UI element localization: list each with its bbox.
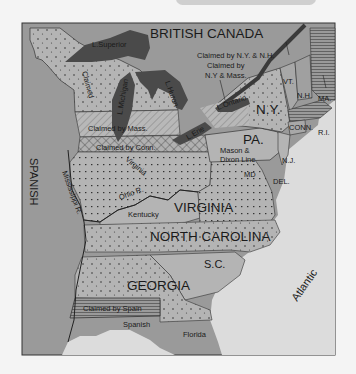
label-del: DEL.	[273, 177, 290, 186]
label-mason-dixon-2: Dixon Line	[220, 155, 255, 164]
label-georgia: GEORGIA	[127, 278, 190, 293]
region-maine-claimed	[310, 28, 335, 100]
label-mason-dixon-1: Mason &	[220, 146, 250, 155]
label-claimed-by-spain: Claimed by Spain	[83, 304, 142, 313]
label-ma: MA.	[318, 94, 331, 103]
label-vt: VT.	[283, 77, 294, 86]
label-spanish-west: SPANISH	[28, 158, 40, 206]
label-british-canada: BRITISH CANADA	[150, 26, 263, 41]
label-claimed-by-conn: Claimed by Conn.	[96, 143, 156, 152]
label-sc: S.C.	[204, 258, 225, 270]
label-pa: PA.	[243, 132, 264, 147]
label-florida: Florida	[183, 330, 207, 339]
label-conn: CONN.	[289, 123, 313, 132]
label-lake-superior: L.Superior	[92, 40, 127, 49]
label-claimed-ny-mass-1: Claimed by	[207, 61, 245, 70]
label-virginia: VIRGINIA	[174, 200, 233, 215]
label-spanish-south: Spanish	[123, 320, 150, 329]
label-nh: N.H.	[297, 91, 312, 100]
label-claimed-by-mass: Claimed by Mass.	[88, 124, 148, 133]
label-ny: N.Y.	[256, 102, 281, 117]
label-md: MD	[244, 170, 256, 179]
label-north-carolina: NORTH CAROLINA	[150, 229, 271, 244]
label-nj: N.J.	[282, 156, 295, 165]
label-claimed-ny-mass-2: N.Y & Mass.	[205, 71, 247, 80]
label-ri: R.I.	[318, 128, 330, 137]
historical-map: BRITISH CANADA Claimed by N.Y. & N.H. Cl…	[0, 0, 356, 374]
label-kentucky: Kentucky	[128, 210, 159, 219]
label-claimed-ny-nh: Claimed by N.Y. & N.H.	[197, 51, 274, 60]
